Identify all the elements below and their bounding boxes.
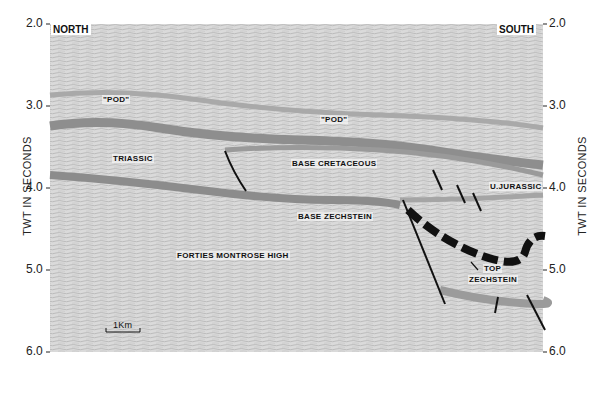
forties-montrose-high-label: FORTIES MONTROSE HIGH: [176, 251, 290, 260]
y-tick-right: 5.0: [549, 262, 566, 276]
u-jurassic-label: U.JURASSIC: [489, 182, 542, 191]
pod-label: "POD": [102, 95, 130, 104]
y-tick-right: 6.0: [549, 344, 566, 358]
y-tick-right: 2.0: [549, 16, 566, 30]
y-tick-right: 4.0: [549, 180, 566, 194]
base-zechstein-label: BASE ZECHSTEIN: [297, 212, 373, 221]
top-zechstein-label: TOP: [483, 264, 502, 273]
triassic-label: TRIASSIC: [112, 154, 154, 163]
base-cretaceous-label: BASE CRETACEOUS: [291, 159, 377, 168]
y-tick-left: 6.0: [26, 344, 43, 358]
y-tick-left: 2.0: [26, 16, 43, 30]
y-tick-right: 3.0: [549, 98, 566, 112]
north-label: NORTH: [51, 24, 91, 35]
y-tick-left: 5.0: [26, 262, 43, 276]
seismic-panel: [50, 24, 543, 352]
pod-label: "POD": [320, 115, 348, 124]
south-label: SOUTH: [497, 24, 536, 35]
top-zechstein-label: ZECHSTEIN: [468, 275, 518, 284]
y-tick-left: 3.0: [26, 98, 43, 112]
y-axis-label-left: TWT IN SECONDS: [21, 136, 33, 235]
y-axis-label-right: TWT IN SECONDS: [576, 136, 588, 235]
scale-bar-label: 1Km: [112, 320, 133, 330]
seismic-section: [0, 0, 592, 396]
